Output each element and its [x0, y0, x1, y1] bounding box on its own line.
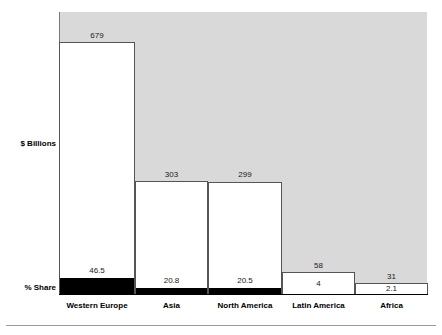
- category-label-western-europe: Western Europe: [56, 301, 138, 311]
- category-label-asia: Asia: [135, 301, 208, 311]
- share-label-north-america: 20.5: [208, 276, 282, 285]
- share-bar-western-europe[interactable]: [60, 278, 134, 295]
- value-label-asia: 303: [135, 170, 208, 179]
- x-axis-line: [59, 294, 428, 295]
- category-label-latin-america: Latin America: [277, 301, 360, 311]
- share-label-western-europe: 46.5: [59, 266, 135, 275]
- bar-western-europe[interactable]: [59, 42, 135, 295]
- category-label-north-america: North America: [203, 301, 287, 311]
- category-label-africa: Africa: [355, 301, 428, 311]
- share-label-latin-america: 4: [282, 279, 355, 288]
- y-axis-label-share: % Share: [4, 283, 56, 292]
- y-axis-label-billions: $ Billions: [4, 139, 56, 148]
- value-label-latin-america: 58: [282, 261, 355, 270]
- value-label-north-america: 299: [208, 170, 282, 179]
- chart-canvas: $ Billions % Share 679 46.5 Western Euro…: [0, 0, 442, 335]
- footer-divider: [6, 325, 436, 326]
- share-label-asia: 20.8: [135, 276, 208, 285]
- value-label-africa: 31: [355, 272, 428, 281]
- value-label-western-europe: 679: [59, 31, 135, 40]
- share-label-africa: 2.1: [355, 284, 428, 293]
